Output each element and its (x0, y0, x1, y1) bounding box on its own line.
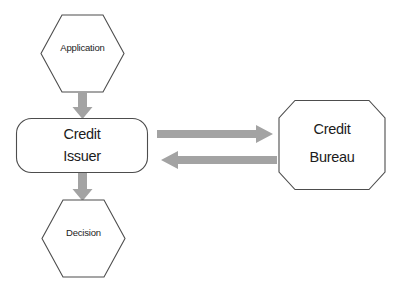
diagram-canvas: Application Credit Issuer Credit Bureau (0, 0, 407, 293)
node-credit-issuer[interactable]: Credit Issuer (17, 119, 148, 173)
right-arrow-icon (157, 125, 273, 143)
left-arrow-icon (161, 151, 277, 169)
arrow-bureau-to-issuer (161, 151, 277, 169)
node-application[interactable]: Application (41, 15, 124, 92)
application-label: Application (60, 42, 104, 53)
down-arrow-icon (73, 173, 93, 201)
node-credit-bureau[interactable]: Credit Bureau (279, 101, 385, 190)
credit-issuer-label-line2: Issuer (63, 148, 101, 164)
decision-hexagon-shape (42, 200, 125, 277)
node-decision[interactable]: Decision (42, 200, 125, 277)
credit-issuer-label-line1: Credit (64, 126, 101, 142)
credit-bureau-octagon-shape (279, 101, 385, 190)
arrow-issuer-to-bureau (157, 125, 273, 143)
arrow-issuer-to-decision (73, 173, 93, 201)
arrow-application-to-issuer (73, 92, 93, 119)
decision-label: Decision (66, 227, 101, 238)
flow-diagram: Application Credit Issuer Credit Bureau (0, 0, 407, 293)
down-arrow-icon (73, 92, 93, 119)
credit-bureau-label-line2: Bureau (310, 149, 355, 165)
credit-bureau-label-line1: Credit (314, 121, 351, 137)
application-hexagon-shape (41, 15, 124, 92)
